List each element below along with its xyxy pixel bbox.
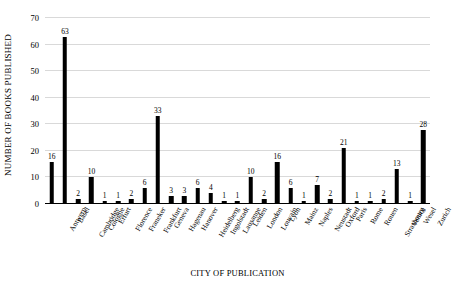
y-axis-tick-label: 30 — [31, 119, 40, 129]
bar-value-label: 21 — [340, 139, 348, 147]
bar-rect — [89, 177, 94, 204]
y-axis-title: NUMBER OF BOOKS PUBLISHED — [0, 0, 16, 210]
y-axis-tick-label: 70 — [31, 13, 40, 23]
bar-value-label: 1 — [116, 192, 120, 200]
bar-value-label: 16 — [274, 153, 282, 161]
bar-value-label: 4 — [209, 184, 213, 192]
bar-series: 16632101126333364111021661722111213128 — [45, 18, 430, 204]
bar: 10 — [244, 18, 257, 204]
bar: 1 — [98, 18, 111, 204]
bar: 6 — [138, 18, 151, 204]
bar-value-label: 1 — [408, 192, 412, 200]
y-axis-tick-label: 0 — [35, 199, 39, 209]
bar-rect — [395, 169, 400, 204]
bar-value-label: 1 — [355, 192, 359, 200]
bar-value-label: 1 — [302, 192, 306, 200]
bar: 6 — [191, 18, 204, 204]
bar-value-label: 6 — [143, 179, 147, 187]
bar-value-label: 1 — [103, 192, 107, 200]
bar-value-label: 2 — [129, 190, 133, 198]
bar: 3 — [164, 18, 177, 204]
bar: 2 — [72, 18, 85, 204]
y-axis-tick-label: 60 — [31, 40, 40, 50]
bar: 2 — [125, 18, 138, 204]
x-axis-title: CITY OF PUBLICATION — [45, 268, 430, 278]
bar-value-label: 2 — [382, 190, 386, 198]
bar: 3 — [178, 18, 191, 204]
bar-value-label: 10 — [247, 168, 255, 176]
x-axis-tick-labels: AntwerpBaselCambridgeCologneErfurtFloren… — [45, 206, 430, 264]
bar-value-label: 6 — [196, 179, 200, 187]
y-axis-tick-label: 40 — [31, 93, 40, 103]
bar-rect — [315, 185, 320, 204]
y-axis-tick-label: 50 — [31, 66, 40, 76]
bar-rect — [249, 177, 254, 204]
bar: 1 — [111, 18, 124, 204]
bar: 16 — [45, 18, 58, 204]
bar-value-label: 10 — [88, 168, 96, 176]
bar: 2 — [324, 18, 337, 204]
plot-area: 16632101126333364111021661722111213128 — [45, 18, 430, 204]
bar: 1 — [297, 18, 310, 204]
bar-value-label: 6 — [289, 179, 293, 187]
bar-value-label: 2 — [262, 190, 266, 198]
bar: 1 — [350, 18, 363, 204]
bar-value-label: 63 — [61, 28, 69, 36]
bar: 10 — [85, 18, 98, 204]
bar-rect — [275, 162, 280, 205]
bar-value-label: 28 — [420, 121, 428, 129]
y-axis-title-text: NUMBER OF BOOKS PUBLISHED — [3, 34, 13, 176]
bar: 4 — [204, 18, 217, 204]
bar: 1 — [403, 18, 416, 204]
bar-rect — [341, 148, 346, 204]
bar: 6 — [284, 18, 297, 204]
y-axis-tick-labels: 010203040506070 — [20, 18, 42, 204]
bar: 1 — [364, 18, 377, 204]
bar: 2 — [377, 18, 390, 204]
bar-value-label: 3 — [169, 187, 173, 195]
x-axis-line — [45, 203, 430, 205]
bar-value-label: 2 — [76, 190, 80, 198]
bar-rect — [63, 37, 68, 204]
bar-value-label: 2 — [329, 190, 333, 198]
bar-value-label: 3 — [183, 187, 187, 195]
y-axis-tick-label: 10 — [31, 172, 40, 182]
bar-rect — [421, 130, 426, 204]
bar-value-label: 1 — [236, 192, 240, 200]
x-axis-tick-label: Zurich — [436, 206, 452, 227]
bar: 16 — [271, 18, 284, 204]
x-axis-tick-label: Rouen — [383, 206, 399, 227]
bar: 1 — [231, 18, 244, 204]
y-axis-tick-label: 20 — [31, 146, 40, 156]
bar-value-label: 1 — [368, 192, 372, 200]
bar: 28 — [417, 18, 430, 204]
bar-rect — [156, 116, 161, 204]
bar: 13 — [390, 18, 403, 204]
bar-value-label: 7 — [315, 176, 319, 184]
bar-value-label: 13 — [393, 160, 401, 168]
bar: 1 — [218, 18, 231, 204]
bar: 33 — [151, 18, 164, 204]
bar-value-label: 16 — [48, 153, 56, 161]
bar-value-label: 33 — [154, 107, 162, 115]
bar-rect — [49, 162, 54, 205]
bar: 7 — [311, 18, 324, 204]
bar: 21 — [337, 18, 350, 204]
bar: 2 — [257, 18, 270, 204]
bar: 63 — [58, 18, 71, 204]
bar-value-label: 1 — [222, 192, 226, 200]
